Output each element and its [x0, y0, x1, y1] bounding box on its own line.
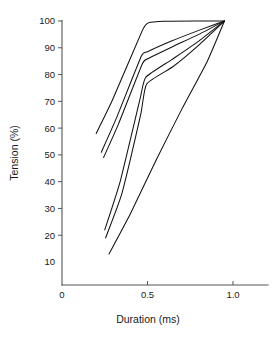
y-tick-label: 70 [44, 96, 55, 107]
y-tick-label: 90 [44, 42, 55, 53]
y-tick-label: 60 [44, 123, 55, 134]
x-axis-ticks: 00.51.0 [59, 281, 239, 300]
data-curve-curve-5 [106, 21, 225, 238]
data-curve-curve-3 [104, 21, 225, 158]
data-curve-curve-1 [96, 21, 224, 133]
y-tick-label: 50 [44, 149, 55, 160]
y-tick-label: 20 [44, 230, 55, 241]
y-tick-label: 40 [44, 176, 55, 187]
y-axis-title: Tension (%) [8, 125, 20, 180]
axis-spines [62, 21, 268, 286]
y-tick-label: 30 [44, 203, 55, 214]
data-curve-curve-6 [109, 21, 224, 254]
y-axis-ticks: 102030405060708090100 [39, 15, 62, 267]
y-tick-label: 100 [39, 15, 55, 26]
data-curve-curve-2 [101, 21, 224, 152]
x-tick-label: 0 [59, 289, 64, 300]
y-tick-label: 80 [44, 69, 55, 80]
data-curve-curve-4 [105, 21, 225, 230]
y-tick-label: 10 [44, 256, 55, 267]
x-tick-label: 1.0 [226, 289, 239, 300]
tension-duration-line-chart: 102030405060708090100 00.51.0 Duration (… [0, 0, 276, 337]
x-tick-label: 0.5 [141, 289, 154, 300]
chart-figure: 102030405060708090100 00.51.0 Duration (… [0, 0, 276, 337]
x-axis-title: Duration (ms) [116, 313, 180, 325]
data-curves [96, 21, 224, 254]
